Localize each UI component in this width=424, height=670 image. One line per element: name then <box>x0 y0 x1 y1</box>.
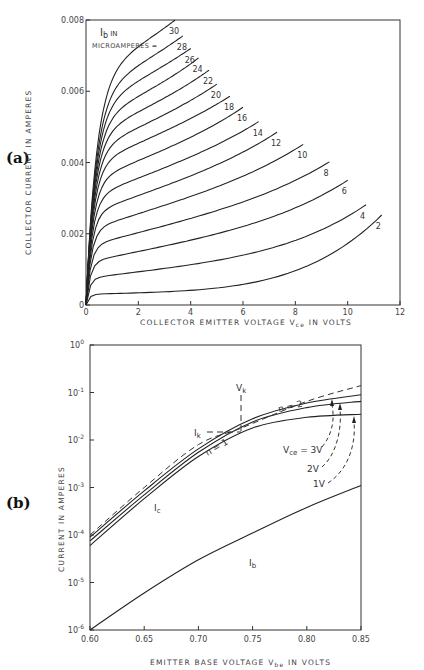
curve-label: 20 <box>211 91 221 100</box>
axis-ticks-b: 0.600.650.700.750.800.8510010-110-210-31… <box>68 338 370 644</box>
tick-label: 10-4 <box>68 528 84 540</box>
curve-ideal-n-1-n-2 <box>90 386 361 535</box>
vce-2v-label: 2V <box>307 464 320 474</box>
vk-label: Vk <box>236 383 247 395</box>
ik-label: Ik <box>194 428 202 440</box>
legend-subtitle-a: MICROAMPERES = <box>92 42 158 50</box>
curve-label: 12 <box>271 139 281 148</box>
x-tick-label: 4 <box>188 308 193 317</box>
curve-ib-8 <box>86 162 329 305</box>
curve-i-c-v-ce-2v <box>90 401 361 541</box>
figure: (a) 02468101200.0020.0040.0060.008 24681… <box>0 0 424 670</box>
curve-label: 2 <box>376 222 381 231</box>
ib-label: Ib <box>249 558 257 570</box>
curve-label: 24 <box>193 65 203 74</box>
curve-label: 10 <box>297 151 307 160</box>
curve-ib-2 <box>86 215 382 305</box>
y-tick-label: 0.004 <box>61 159 84 168</box>
curve-label: 14 <box>253 129 263 138</box>
curve-ib-10 <box>86 144 303 305</box>
chart-a: (a) 02468101200.0020.0040.0060.008 24681… <box>6 16 405 328</box>
y-tick-label: 0.008 <box>61 16 84 25</box>
tick-label: 100 <box>70 338 84 350</box>
y-tick-label: 0 <box>79 301 84 310</box>
tick-label: 10-3 <box>68 481 84 493</box>
x-tick-label: 8 <box>293 308 298 317</box>
vce-3v-label: Vce = 3V <box>283 445 323 457</box>
x-tick-label: 12 <box>395 308 405 317</box>
chart-b: (b) 0.600.650.700.750.800.8510010-110-21… <box>6 338 370 668</box>
curve-i-b <box>90 486 361 631</box>
y-axis-title-b: CURRENT IN AMPERES <box>57 466 66 572</box>
n2-label: n = 2 <box>277 399 303 415</box>
curve-label: 26 <box>185 56 195 65</box>
tick-label: 10-5 <box>68 576 84 588</box>
vce-2v-arrow <box>322 409 340 467</box>
panel-label-b: (b) <box>6 494 31 512</box>
curve-label: 18 <box>224 103 234 112</box>
x-axis-title-b: EMITTER BASE VOLTAGE Vbe IN VOLTS <box>150 658 331 668</box>
x-tick-label: 0.60 <box>81 635 99 644</box>
legend-title-a: Ib IN <box>100 27 118 40</box>
curve-ib-6 <box>86 180 348 305</box>
x-tick-label: 0.70 <box>189 635 207 644</box>
vce-3v-arrow <box>322 405 333 447</box>
y-tick-label: 0.006 <box>61 87 84 96</box>
x-tick-label: 0.75 <box>244 635 262 644</box>
axis-ticks-a: 02468101200.0020.0040.0060.008 <box>61 16 405 317</box>
curve-label: 30 <box>169 27 179 36</box>
x-tick-label: 6 <box>240 308 245 317</box>
y-tick-label: 0.002 <box>61 230 84 239</box>
ic-label: Ic <box>154 503 161 515</box>
curve-label: 6 <box>342 187 347 196</box>
curve-label: 4 <box>360 212 365 221</box>
vce-1v-arrow <box>328 422 354 483</box>
tick-label: 10-2 <box>68 433 84 445</box>
curve-ib-12 <box>86 132 277 305</box>
curve-label: 28 <box>177 43 187 52</box>
x-axis-title-a: COLLECTOR EMITTER VOLTAGE Vce IN VOLTS <box>140 318 352 328</box>
x-tick-label: 0 <box>83 308 88 317</box>
curves-b <box>90 386 361 630</box>
x-tick-label: 2 <box>136 308 141 317</box>
curve-ib-4 <box>86 205 366 305</box>
tick-label: 10-1 <box>68 386 84 398</box>
x-tick-label: 10 <box>343 308 353 317</box>
curve-ib-14 <box>86 122 259 305</box>
curve-label: 22 <box>203 77 213 86</box>
x-tick-label: 0.65 <box>135 635 153 644</box>
tick-label: 10-6 <box>68 623 84 635</box>
vce-1v-arrowhead <box>352 416 356 423</box>
vce-1v-label: 1V <box>313 479 326 489</box>
x-tick-label: 0.85 <box>352 635 370 644</box>
vce-3v-arrowhead <box>330 399 334 406</box>
y-axis-title-a: COLLECTOR CURRENT IN AMPERES <box>24 90 33 255</box>
x-tick-label: 0.80 <box>298 635 316 644</box>
curves-a: 24681012141618202224262830 <box>86 20 382 305</box>
curve-label: 16 <box>237 114 247 123</box>
curve-label: 8 <box>323 169 328 178</box>
curve-ib-24 <box>86 58 199 305</box>
